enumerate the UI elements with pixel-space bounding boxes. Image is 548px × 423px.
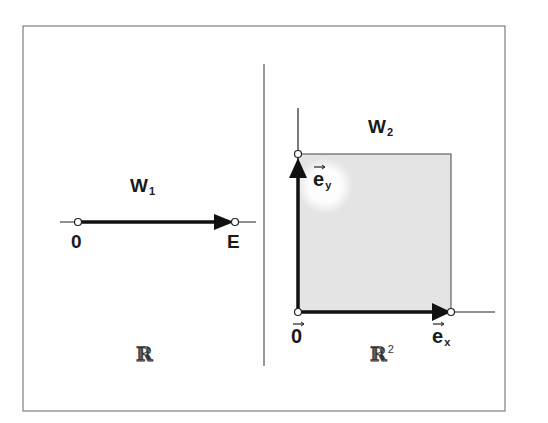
end-label: E [227,232,240,251]
origin-point [75,219,82,226]
ey-point [295,151,302,158]
ey-label: ey [313,169,331,191]
real-plane-label: ℝ2 [370,344,394,364]
w1-title: W1 [130,176,155,197]
origin-point [295,309,302,316]
w2-diagram [289,108,495,326]
origin-vector-label: 0 [291,326,302,346]
origin-label: 0 [71,232,82,251]
real-numbers-label: ℝ [136,344,153,364]
diagram-canvas [0,0,548,423]
end-point [232,219,239,226]
w1-diagram [60,214,256,230]
w2-title: W2 [368,117,393,138]
ex-point [448,309,455,316]
ex-label: ex [432,326,450,348]
